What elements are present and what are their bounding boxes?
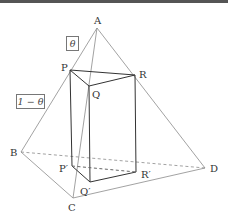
prism-P1Q1 [72, 166, 90, 182]
edge-AC [73, 28, 97, 198]
label-P: P [61, 62, 68, 73]
ratio-theta-box: θ [66, 36, 79, 51]
label-R: R [139, 69, 147, 80]
label-R-prime: R′ [141, 169, 152, 180]
label-D: D [210, 163, 218, 174]
label-C: C [68, 202, 76, 213]
label-Q: Q [92, 89, 100, 100]
prism-PR [70, 70, 135, 75]
prism-RR1 [135, 75, 136, 172]
prism-PQ [70, 70, 89, 86]
label-B: B [10, 147, 17, 158]
prism-P1R1-hidden [72, 166, 136, 172]
prism-Q1R1 [90, 172, 136, 182]
edge-CD [73, 168, 205, 198]
prism-PP1 [70, 70, 72, 166]
label-P-prime: P′ [59, 163, 69, 174]
ratio-one-minus-theta-box: 1 − θ [16, 94, 45, 109]
label-Q-prime: Q′ [80, 186, 91, 197]
edge-AD [97, 28, 205, 168]
edge-BC [21, 152, 73, 198]
tetrahedron-diagram: A B C D P Q R P′ Q′ R′ [0, 0, 228, 221]
edge-AB [21, 28, 97, 152]
prism-QR [89, 75, 135, 86]
label-A: A [93, 15, 102, 26]
edge-BD-hidden [21, 152, 205, 168]
